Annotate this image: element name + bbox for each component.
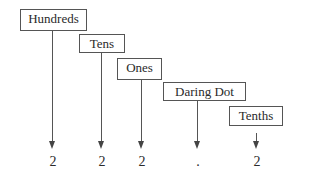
label-ones: Ones [117,58,162,80]
arrow-hundreds-line [52,31,53,142]
label-daring-dot: Daring Dot [163,82,246,101]
arrow-tens-line [101,53,102,142]
arrow-ones-line [141,80,142,142]
digit-tens: 2 [99,154,106,170]
arrow-dot-line [197,101,198,142]
arrow-hundreds-head-icon [49,141,55,149]
label-tens: Tens [79,34,125,53]
decimal-point: . [196,154,200,170]
label-hundreds: Hundreds [20,9,87,31]
digit-tenths: 2 [254,154,261,170]
digit-ones: 2 [139,154,146,170]
arrow-tenths-head-icon [253,141,259,149]
arrow-ones-head-icon [138,141,144,149]
label-tenths: Tenths [229,106,283,126]
arrow-dot-head-icon [194,141,200,149]
arrow-tens-head-icon [98,141,104,149]
digit-hundreds: 2 [50,154,57,170]
